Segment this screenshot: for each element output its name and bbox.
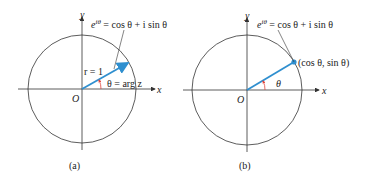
caption-b: (b) [239,160,251,172]
angle-arc [99,80,101,89]
angle-label: θ = arg z [107,78,143,89]
x-axis-label: x [321,85,327,96]
y-axis-label: y [79,9,85,20]
origin-label: O [72,93,79,104]
formula-label: eiθ = cos θ + i sin θ [91,18,167,30]
caption-a: (a) [69,160,80,172]
unit-circle-diagrams: y x O eiθ = cos θ + i sin θ r = 1 θ = ar… [0,0,366,181]
x-axis-label: x [156,84,162,95]
point-label: (cos θ, sin θ) [298,57,349,69]
angle-label: θ [276,78,281,89]
formula-leader-line [114,30,124,69]
panel-a: y x O eiθ = cos θ + i sin θ r = 1 θ = ar… [18,9,167,172]
y-axis-label: y [244,10,250,21]
radius-vector [247,62,294,90]
panel-b: y x O eiθ = cos θ + i sin θ (cos θ, sin … [183,10,349,172]
formula-label: eiθ = cos θ + i sin θ [257,18,333,30]
origin-label: O [237,94,244,105]
radius-label: r = 1 [84,66,103,77]
angle-arc [263,81,265,90]
